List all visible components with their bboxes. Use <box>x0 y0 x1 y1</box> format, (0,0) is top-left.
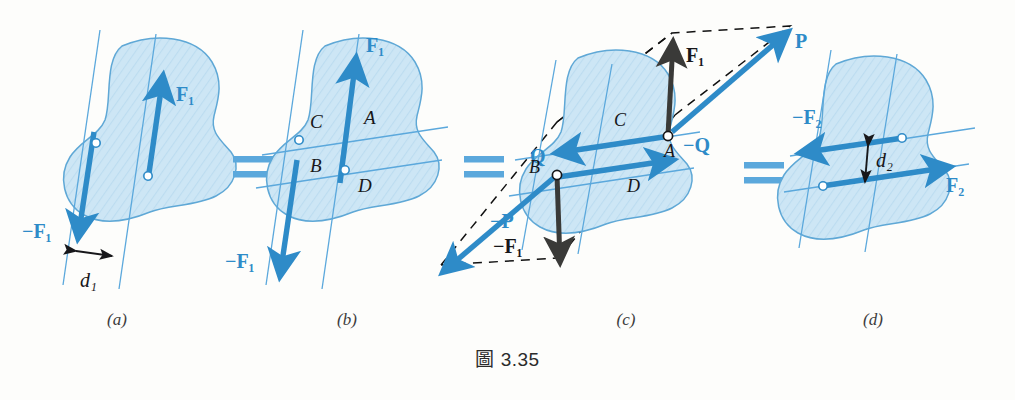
label-neg-f1-b: −F₁ <box>225 250 255 272</box>
point-marker-b-c <box>552 170 561 179</box>
label-neg-f1-a: −F₁ <box>22 220 52 242</box>
figure-caption-wrap: 圖 3.35 <box>0 344 1015 371</box>
point-marker-a-2 <box>144 172 152 180</box>
point-label-d-c: D <box>626 176 640 196</box>
figure-caption: 圖 3.35 <box>475 349 539 370</box>
point-marker-d-1 <box>898 134 906 142</box>
panel-d: −F₂ F₂ d₂ (d) <box>778 50 975 329</box>
label-neg-f1-c: −F₁ <box>493 235 523 257</box>
label-neg-q-c: −Q <box>683 134 710 156</box>
point-label-c-b: C <box>310 111 323 132</box>
dimension-line-d1 <box>76 251 112 256</box>
label-f1-a: F₁ <box>176 83 194 105</box>
point-marker-d-b <box>341 166 349 174</box>
figure-3-35: F₁ −F₁ d₁ (a) F₁ −F₁ A B C D <box>0 0 1015 400</box>
point-marker-a-c <box>663 131 672 140</box>
point-label-b-c: B <box>529 157 540 177</box>
equals-sign-2 <box>464 156 504 178</box>
label-neg-p-c: −P <box>490 210 514 232</box>
label-f1-b: F₁ <box>366 34 384 56</box>
label-d1: d₁ <box>80 269 97 291</box>
vector-neg-f1-c <box>557 175 560 262</box>
figure-canvas: F₁ −F₁ d₁ (a) F₁ −F₁ A B C D <box>0 0 1015 400</box>
panel-label-a: (a) <box>107 310 127 329</box>
point-marker-d-2 <box>819 182 827 190</box>
point-label-d-b: D <box>357 175 372 196</box>
label-f1-c: F₁ <box>686 44 704 66</box>
equals-sign-3 <box>744 162 784 184</box>
point-label-b-b: B <box>310 155 322 176</box>
panel-label-b: (b) <box>337 310 357 329</box>
panel-b: F₁ −F₁ A B C D (b) <box>225 30 448 329</box>
label-f2-d: F₂ <box>946 174 964 196</box>
point-marker-a-1 <box>92 139 100 147</box>
label-p-c: P <box>795 30 807 52</box>
point-marker-c-b <box>295 136 303 144</box>
point-label-c-c: C <box>614 110 627 130</box>
panel-label-d: (d) <box>863 310 883 329</box>
label-d2: d₂ <box>876 149 893 171</box>
panel-a: F₁ −F₁ d₁ (a) <box>22 30 236 329</box>
blob-shape-a <box>64 38 236 221</box>
label-neg-f2-d: −F₂ <box>792 106 822 128</box>
point-label-a-c: A <box>663 141 676 161</box>
panel-label-c: (c) <box>617 310 636 329</box>
point-label-a-b: A <box>362 107 376 128</box>
blob-shape-d <box>778 56 950 239</box>
